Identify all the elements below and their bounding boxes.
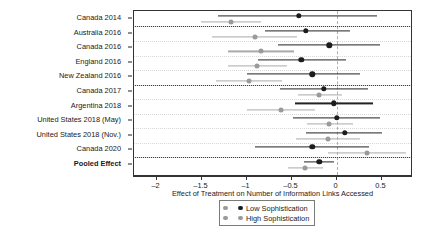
zero-reference-line [337,11,338,175]
data-point-marker [365,151,370,156]
data-point-marker [321,86,326,91]
y-axis-tick [128,61,132,62]
data-point-marker [247,78,252,83]
y-axis-tick [128,32,132,33]
y-axis-label: Pooled Effect [74,160,121,168]
legend: Low Sophistication High Sophistication [219,200,315,226]
y-axis-tick [128,18,132,19]
y-axis-tick [128,47,132,48]
forest-plot-figure: Canada 2014Australia 2016Canada 2016Engl… [0,0,425,234]
gridline [134,128,411,129]
gridline [134,114,411,115]
legend-label-low: Low Sophistication [246,204,308,213]
data-point-marker [278,107,283,112]
y-axis-tick [128,163,132,164]
y-axis-label: Canada 2017 [77,87,121,95]
y-axis-label: United States 2018 (Nov.) [37,131,122,139]
y-axis-tick [128,90,132,91]
legend-marker-low [223,206,246,211]
data-point-marker [258,49,263,54]
x-axis-title: Effect of Treatment on Number of Informa… [133,189,412,198]
data-point-marker [317,93,322,98]
x-axis-tick [381,176,382,180]
legend-label-high: High Sophistication [246,214,309,223]
plot-area [133,10,412,176]
y-axis-label: Canada 2014 [77,14,121,22]
legend-dot-small-icon [223,216,228,221]
y-axis-tick [128,134,132,135]
y-axis-label: Australia 2016 [74,29,121,37]
x-axis-tick [201,176,202,180]
gridline [134,26,411,27]
x-axis-line [133,176,412,177]
data-point-marker [317,159,322,164]
x-axis-tick [336,176,337,180]
gridline [134,157,411,158]
data-point-marker [342,130,347,135]
legend-marker-high [223,216,246,221]
data-point-marker [327,42,332,47]
gridline [134,41,411,42]
legend-dot-large-icon [238,206,243,211]
data-point-marker [327,122,332,127]
legend-item-high: High Sophistication [223,213,309,223]
x-axis-tick [156,176,157,180]
gridline [134,85,411,86]
y-axis-tick [128,149,132,150]
y-axis-label: New Zealand 2016 [59,72,121,80]
data-point-marker [309,144,314,149]
gridline [134,99,411,100]
y-axis-label: Canada 2020 [77,145,121,153]
gridline [134,56,411,57]
legend-item-low: Low Sophistication [223,203,309,213]
data-point-marker [229,20,234,25]
y-axis-label-group: Canada 2014Australia 2016Canada 2016Engl… [0,0,129,178]
data-point-marker [303,165,308,170]
data-point-marker [334,115,339,120]
data-point-marker [252,34,257,39]
y-axis-label: England 2016 [75,58,121,66]
data-point-marker [325,136,330,141]
data-point-marker [296,13,301,18]
gridline [134,143,411,144]
y-axis-tick [128,120,132,121]
y-axis-tick [128,105,132,106]
data-point-marker [303,28,308,33]
legend-dot-small-icon [223,206,228,211]
data-point-marker [309,72,314,77]
gridline [134,70,411,71]
y-axis-label: Canada 2016 [77,43,121,51]
legend-dot-large-icon [238,216,243,221]
y-axis-label: United States 2018 (May) [37,116,121,124]
x-axis-tick [246,176,247,180]
data-point-marker [299,57,304,62]
confidence-interval-line [247,74,360,75]
x-axis-tick [291,176,292,180]
y-axis-label: Argentina 2018 [71,102,121,110]
y-axis-tick [128,76,132,77]
data-point-marker [255,63,260,68]
